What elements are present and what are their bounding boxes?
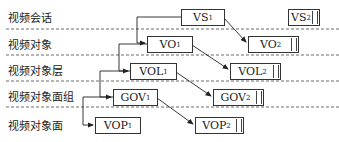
vol1-to-gov2-connector — [176, 72, 211, 96]
node-subscript: 2 — [277, 41, 281, 49]
gov1-to-vop2-connector — [157, 98, 193, 124]
layer-label-video-object: 视频对象 — [8, 36, 52, 52]
node-subscript: 2 — [262, 68, 266, 76]
node-subscript: 1 — [146, 94, 150, 102]
node-subscript: 2 — [246, 94, 250, 102]
node-vo1: VO1 — [147, 36, 193, 53]
node-vs2: VS2 — [288, 9, 320, 26]
node-label: VO — [260, 38, 277, 51]
node-vol1: VOL1 — [130, 63, 177, 80]
vs1-to-vo2-connector — [224, 18, 246, 42]
layer-label-video-object-layer: 视频对象层 — [8, 62, 63, 78]
node-subscript: 1 — [163, 68, 167, 76]
node-gov1: GOV1 — [113, 89, 158, 106]
node-vop2: VOP2 — [195, 117, 244, 134]
node-label: VO — [159, 38, 176, 51]
node-vop1: VOP1 — [95, 117, 141, 134]
node-label: VOL — [238, 65, 262, 78]
layer-label-video-session: 视频会话 — [8, 9, 52, 25]
node-subscript: 1 — [128, 122, 132, 130]
node-vs1: VS1 — [181, 9, 225, 26]
node-label: VS — [291, 11, 306, 24]
vo1-to-vol2-connector — [192, 45, 228, 69]
node-subscript: 1 — [176, 41, 180, 49]
node-label: GOV — [220, 91, 246, 104]
layer-label-group-of-vop: 视频对象面组 — [8, 88, 74, 104]
node-label: GOV — [120, 91, 146, 104]
node-vo2: VO2 — [248, 36, 299, 53]
node-gov2: GOV2 — [213, 89, 264, 106]
node-label: VOP — [202, 119, 226, 132]
node-subscript: 2 — [226, 122, 230, 130]
node-subscript: 2 — [307, 14, 311, 22]
node-vol2: VOL2 — [230, 63, 281, 80]
node-label: VS — [193, 11, 208, 24]
node-label: VOP — [104, 119, 128, 132]
layer-label-video-object-plane: 视频对象面 — [8, 117, 63, 133]
node-label: VOL — [139, 65, 163, 78]
node-subscript: 1 — [209, 14, 213, 22]
